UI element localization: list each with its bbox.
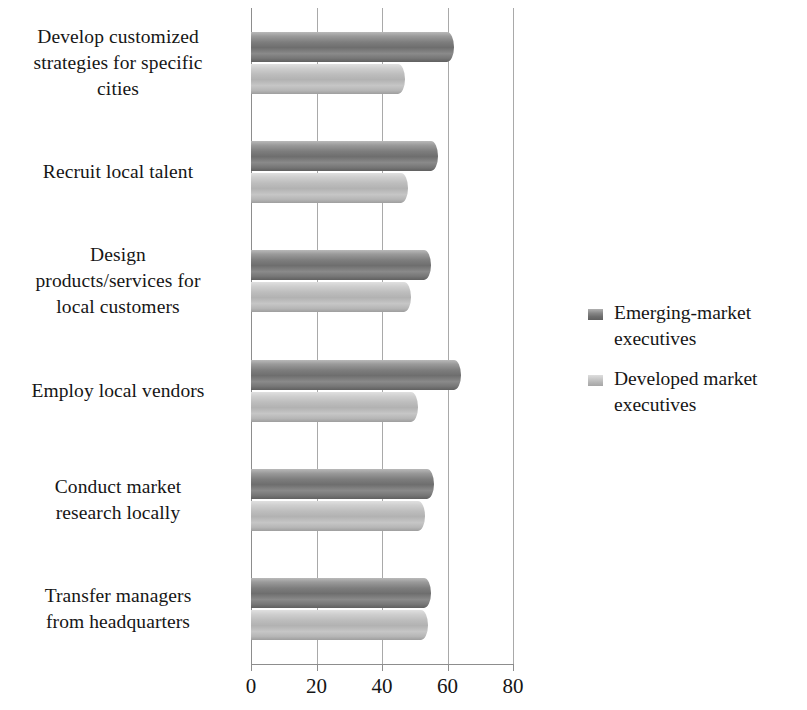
category-label-line: local customers bbox=[0, 294, 236, 320]
gridline bbox=[382, 8, 383, 664]
legend-item[interactable]: Developed market executives bbox=[588, 366, 803, 418]
x-axis-tick bbox=[513, 664, 514, 671]
category-label-line: products/services for bbox=[0, 268, 236, 294]
bar bbox=[251, 173, 408, 203]
bar bbox=[251, 360, 461, 390]
value-axis-line bbox=[251, 8, 252, 664]
category-label-line: strategies for specific bbox=[0, 50, 236, 76]
legend-swatch-icon bbox=[588, 375, 603, 386]
category-label: Develop customizedstrategies for specifi… bbox=[0, 24, 236, 102]
category-label-line: Design bbox=[0, 242, 236, 268]
bar-chart: Develop customizedstrategies for specifi… bbox=[0, 0, 807, 710]
bar-group bbox=[251, 250, 513, 312]
category-label-line: from headquarters bbox=[0, 609, 236, 635]
x-axis-tick-label: 80 bbox=[483, 673, 543, 699]
plot-area bbox=[251, 8, 513, 664]
bar bbox=[251, 501, 425, 531]
bar bbox=[251, 578, 431, 608]
category-label: Employ local vendors bbox=[0, 378, 236, 404]
category-label: Transfer managersfrom headquarters bbox=[0, 583, 236, 635]
legend-item[interactable]: Emerging-market executives bbox=[588, 300, 803, 352]
x-axis-tick-label: 60 bbox=[418, 673, 478, 699]
category-axis-labels: Develop customizedstrategies for specifi… bbox=[0, 0, 240, 660]
gridline bbox=[317, 8, 318, 664]
gridline bbox=[448, 8, 449, 664]
x-axis-tick bbox=[317, 664, 318, 671]
bar bbox=[251, 610, 428, 640]
category-label-line: cities bbox=[0, 76, 236, 102]
bar-group bbox=[251, 469, 513, 531]
bar bbox=[251, 469, 434, 499]
category-label-line: Develop customized bbox=[0, 24, 236, 50]
category-label: Conduct marketresearch locally bbox=[0, 474, 236, 526]
x-axis-tick-label: 40 bbox=[352, 673, 412, 699]
bar-group bbox=[251, 141, 513, 203]
bar bbox=[251, 282, 411, 312]
x-axis-tick-label: 20 bbox=[287, 673, 347, 699]
bar-group bbox=[251, 578, 513, 640]
legend-swatch-icon bbox=[588, 309, 603, 320]
category-label-line: Transfer managers bbox=[0, 583, 236, 609]
x-axis-tick bbox=[251, 664, 252, 671]
category-label: Designproducts/services forlocal custome… bbox=[0, 242, 236, 320]
legend-label: Emerging-market executives bbox=[614, 300, 803, 352]
category-label-line: Conduct market bbox=[0, 474, 236, 500]
bar bbox=[251, 141, 438, 171]
bar-group bbox=[251, 32, 513, 94]
gridline bbox=[513, 8, 514, 664]
x-axis-tick bbox=[448, 664, 449, 671]
category-label-line: research locally bbox=[0, 500, 236, 526]
bar bbox=[251, 392, 418, 422]
bar bbox=[251, 64, 405, 94]
x-axis-tick-label: 0 bbox=[221, 673, 281, 699]
category-label: Recruit local talent bbox=[0, 159, 236, 185]
bar-group bbox=[251, 360, 513, 422]
bar bbox=[251, 250, 431, 280]
legend: Emerging-market executivesDeveloped mark… bbox=[588, 300, 803, 432]
legend-label: Developed market executives bbox=[614, 366, 803, 418]
bar bbox=[251, 32, 454, 62]
category-label-line: Recruit local talent bbox=[0, 159, 236, 185]
category-label-line: Employ local vendors bbox=[0, 378, 236, 404]
x-axis-tick bbox=[382, 664, 383, 671]
